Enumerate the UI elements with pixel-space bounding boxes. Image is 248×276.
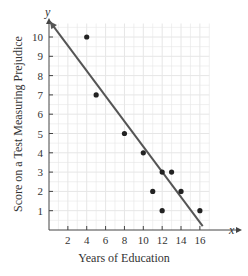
y-tick-label: 3 <box>38 166 44 178</box>
data-point <box>160 208 165 213</box>
x-tick-label: 8 <box>122 234 128 246</box>
data-point <box>122 131 127 136</box>
data-point <box>178 189 183 194</box>
scatter-plot: 24681012141612345678910 x y Years of Edu… <box>0 0 248 276</box>
y-tick-label: 8 <box>38 70 44 82</box>
tick-labels: 24681012141612345678910 <box>32 31 206 246</box>
y-tick-label: 7 <box>38 89 44 101</box>
y-axis-title: Score on a Test Measuring Prejudice <box>11 36 25 212</box>
data-point <box>160 170 165 175</box>
y-tick-label: 6 <box>38 108 44 120</box>
y-tick-label: 5 <box>38 128 44 140</box>
data-point <box>94 92 99 97</box>
data-point <box>141 150 146 155</box>
y-tick-label: 1 <box>38 205 44 217</box>
x-tick-label: 14 <box>176 234 188 246</box>
x-tick-label: 6 <box>103 234 109 246</box>
x-tick-label: 10 <box>138 234 150 246</box>
x-tick-label: 16 <box>194 234 206 246</box>
data-point <box>150 189 155 194</box>
y-tick-label: 9 <box>38 50 44 62</box>
data-point <box>197 208 202 213</box>
y-axis-variable: y <box>44 5 51 19</box>
y-tick-label: 10 <box>32 31 44 43</box>
data-point <box>169 170 174 175</box>
y-tick-label: 2 <box>38 185 44 197</box>
x-axis-arrow-icon <box>236 227 242 233</box>
y-tick-label: 4 <box>38 147 44 159</box>
x-tick-label: 4 <box>84 234 90 246</box>
x-tick-label: 2 <box>65 234 71 246</box>
x-tick-label: 12 <box>157 234 168 246</box>
x-axis-variable: x <box>228 223 235 237</box>
data-point <box>84 34 89 39</box>
x-axis-title: Years of Education <box>78 251 169 265</box>
